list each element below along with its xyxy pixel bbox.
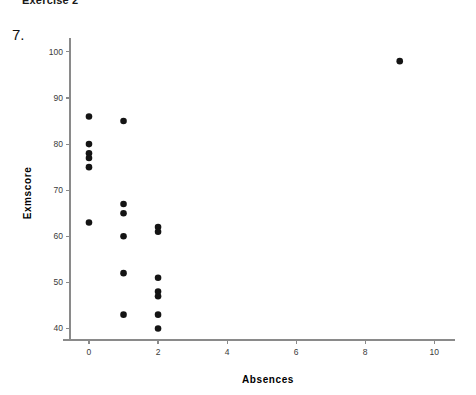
y-tick-label: 60 — [54, 231, 64, 241]
y-tick-label: 70 — [54, 185, 64, 195]
data-point — [120, 201, 127, 208]
x-tick-label: 2 — [156, 347, 161, 357]
scatter-plot: 405060708090100 0246810 Absences Exmscor… — [0, 0, 476, 395]
data-point — [396, 58, 403, 65]
data-point — [86, 113, 93, 120]
data-point — [155, 228, 162, 235]
y-tick-label: 90 — [54, 93, 64, 103]
data-points-layer — [86, 58, 403, 332]
plot-svg: 405060708090100 0246810 Absences Exmscor… — [0, 0, 476, 395]
y-tick-label: 100 — [49, 47, 63, 57]
data-point — [120, 270, 127, 277]
data-point — [120, 118, 127, 125]
x-axis-title: Absences — [242, 374, 294, 385]
data-point — [120, 311, 127, 318]
x-tick-label: 8 — [363, 347, 368, 357]
y-axis: 405060708090100 — [49, 38, 70, 340]
x-tick-label: 10 — [430, 347, 440, 357]
data-point — [155, 325, 162, 332]
x-tick-label: 0 — [87, 347, 92, 357]
x-tick-label: 6 — [294, 347, 299, 357]
data-point — [155, 274, 162, 281]
x-axis: 0246810 — [63, 340, 455, 357]
y-tick-label: 50 — [54, 277, 64, 287]
data-point — [86, 155, 93, 162]
y-tick-label: 80 — [54, 139, 64, 149]
data-point — [86, 141, 93, 148]
x-tick-label: 4 — [225, 347, 230, 357]
data-point — [155, 311, 162, 318]
data-point — [120, 233, 127, 240]
data-point — [155, 293, 162, 300]
data-point — [120, 210, 127, 217]
y-tick-label: 40 — [54, 323, 64, 333]
y-axis-title: Exmscore — [22, 167, 33, 220]
data-point — [86, 219, 93, 226]
data-point — [86, 164, 93, 171]
